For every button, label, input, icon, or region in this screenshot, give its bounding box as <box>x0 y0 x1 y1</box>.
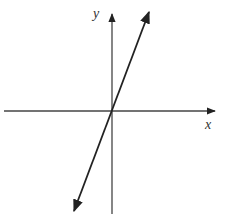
coordinate-plane <box>0 0 226 214</box>
y-axis-label: y <box>93 6 99 22</box>
graph: y x <box>0 0 226 214</box>
x-axis-label: x <box>205 117 211 133</box>
